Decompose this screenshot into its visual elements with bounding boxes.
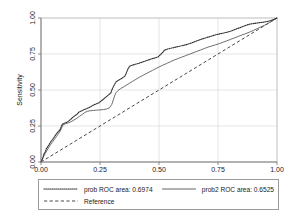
roc-chart-page: 0.00 0.25 0.50 0.75 1.00 Sensitivity 0.0… (0, 0, 297, 223)
y-tick-label-4: 1.00 (29, 11, 36, 25)
legend-row-2: Reference (43, 195, 274, 207)
legend-label-reference: Reference (84, 198, 114, 205)
legend-entry-prob2[interactable]: prob2 ROC area: 0.6525 (161, 185, 274, 193)
y-tick-label-2: 0.50 (29, 83, 36, 97)
y-axis-title: Sensitivity (16, 74, 24, 106)
legend-sample-dashed-icon (43, 197, 79, 205)
legend-entry-prob[interactable]: prob ROC area: 0.6974 (43, 185, 161, 193)
legend-sample-dotted-icon (43, 185, 79, 193)
chart-legend: prob ROC area: 0.6974 prob2 ROC area: 0.… (38, 179, 279, 210)
y-tick-label-1: 0.25 (29, 119, 36, 133)
legend-label-prob: prob ROC area: 0.6974 (84, 186, 153, 193)
chart-plot-area: 0.00 0.25 0.50 0.75 1.00 Sensitivity 0.0… (0, 0, 297, 172)
legend-row-1: prob ROC area: 0.6974 prob2 ROC area: 0.… (43, 183, 274, 195)
legend-sample-solid-icon (161, 185, 197, 193)
roc-chart-svg: 0.00 0.25 0.50 0.75 1.00 Sensitivity 0.0… (0, 0, 297, 172)
legend-entry-reference[interactable]: Reference (43, 197, 175, 205)
legend-label-prob2: prob2 ROC area: 0.6525 (202, 186, 274, 193)
x-axis-title-wrap: 1-Specificity (0, 160, 297, 172)
y-axis: 0.00 0.25 0.50 0.75 1.00 Sensitivity (16, 11, 41, 169)
y-tick-label-3: 0.75 (29, 47, 36, 61)
legend-rows: prob ROC area: 0.6974 prob2 ROC area: 0.… (39, 180, 278, 209)
